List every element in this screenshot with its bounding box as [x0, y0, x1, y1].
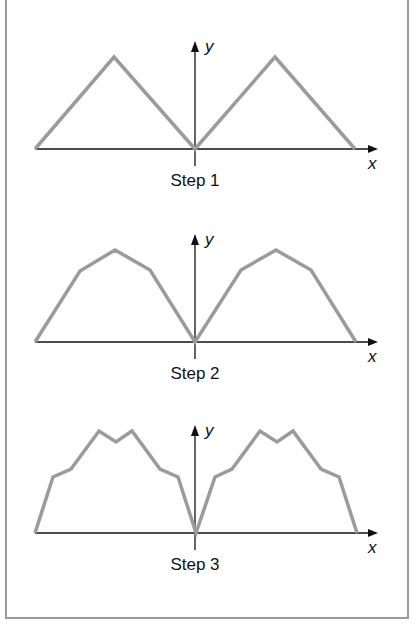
panel-step-1: yxStep 1	[35, 37, 378, 190]
fractal-steps-diagram: yxStep 1 yxStep 2 yxStep 3	[0, 0, 417, 634]
fractal-curve	[35, 431, 357, 533]
x-axis-arrow-icon	[368, 338, 378, 346]
y-axis-arrow-icon	[191, 234, 199, 245]
x-axis-label: x	[367, 347, 377, 366]
x-axis-arrow-icon	[368, 529, 378, 537]
x-axis-label: x	[367, 154, 377, 173]
step-caption: Step 3	[170, 555, 219, 574]
x-axis-arrow-icon	[368, 145, 378, 153]
step-caption: Step 2	[170, 364, 219, 383]
panel-step-3: yxStep 3	[35, 421, 378, 574]
y-axis-label: y	[204, 230, 215, 249]
x-axis-label: x	[367, 538, 377, 557]
y-axis-label: y	[204, 37, 215, 56]
y-axis-label: y	[204, 421, 215, 440]
y-axis-arrow-icon	[191, 41, 199, 52]
panel-step-2: yxStep 2	[35, 230, 378, 383]
step-caption: Step 1	[170, 171, 219, 190]
y-axis-arrow-icon	[191, 425, 199, 436]
